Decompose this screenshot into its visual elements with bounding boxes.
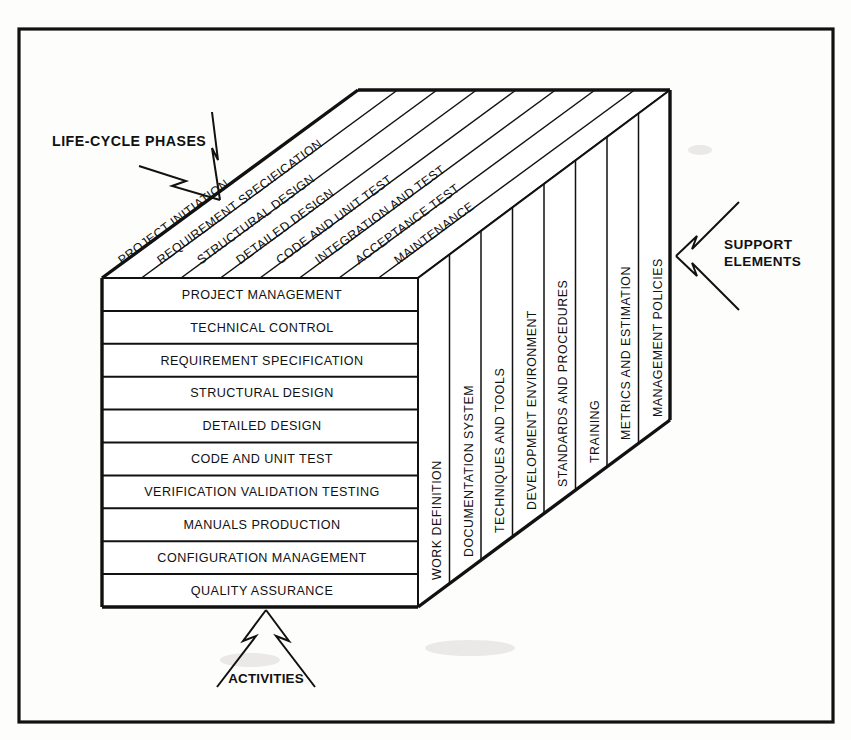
activity-label: CODE AND UNIT TEST	[191, 452, 333, 466]
support-label: STANDARDS AND PROCEDURES	[556, 280, 570, 487]
activities-label: ACTIVITIES	[228, 671, 304, 686]
life-cycle-phases-label: LIFE-CYCLE PHASES	[52, 133, 206, 149]
support-label: MANAGEMENT POLICIES	[651, 258, 665, 417]
scan-noise	[688, 145, 712, 155]
activity-label: CONFIGURATION MANAGEMENT	[157, 551, 366, 565]
scan-noise	[220, 653, 280, 667]
diagram-canvas: PROJECT INITIATION REQUIREMENT SPECIFICA…	[0, 0, 851, 740]
support-label: METRICS AND ESTIMATION	[619, 266, 633, 440]
support-label: DEVELOPMENT ENVIRONMENT	[525, 310, 539, 510]
activity-label: TECHNICAL CONTROL	[190, 321, 334, 335]
support-label: TRAINING	[588, 400, 602, 463]
activity-label: MANUALS PRODUCTION	[183, 518, 340, 532]
support-label: TECHNIQUES AND TOOLS	[493, 368, 507, 533]
support-elements-label-line2: ELEMENTS	[724, 254, 801, 269]
activity-label: VERIFICATION VALIDATION TESTING	[144, 485, 380, 499]
activity-label: QUALITY ASSURANCE	[191, 584, 334, 598]
activity-label: REQUIREMENT SPECIFICATION	[160, 354, 363, 368]
support-elements-label-line1: SUPPORT	[724, 237, 793, 252]
activity-label: DETAILED DESIGN	[202, 419, 321, 433]
support-label: WORK DEFINITION	[430, 460, 444, 580]
support-label: DOCUMENTATION SYSTEM	[462, 385, 476, 557]
cube-diagram: PROJECT INITIATION REQUIREMENT SPECIFICA…	[0, 0, 851, 740]
activity-label: STRUCTURAL DESIGN	[190, 386, 334, 400]
activity-label: PROJECT MANAGEMENT	[182, 288, 342, 302]
scan-noise	[425, 640, 515, 656]
